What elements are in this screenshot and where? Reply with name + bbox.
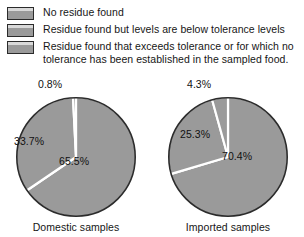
legend-item-label: No residue found — [43, 6, 124, 19]
charts-container: 0.8% 33.7% 65.5% Domestic samples 4.3% 2… — [0, 78, 304, 237]
pie-slice-label-middle: 25.3% — [180, 128, 210, 140]
legend-item-label: Residue found but levels are below toler… — [43, 23, 285, 36]
legend-item-exceeds-tolerance: Residue found that exceeds tolerance or … — [0, 40, 304, 65]
chart-domestic-samples: 0.8% 33.7% 65.5% Domestic samples — [0, 78, 152, 237]
legend-swatch-icon — [7, 24, 34, 37]
legend-swatch-icon — [7, 41, 34, 54]
pie-slice-label-major: 70.4% — [222, 150, 252, 162]
pie-slice-label-minor: 4.3% — [187, 78, 211, 90]
chart-imported-samples: 4.3% 25.3% 70.4% Imported samples — [152, 78, 304, 237]
legend-item-label: Residue found that exceeds tolerance or … — [43, 40, 294, 65]
legend-item-no-residue: No residue found — [0, 6, 304, 20]
pie-slice-label-major: 65.5% — [59, 155, 89, 167]
chart-caption: Imported samples — [152, 221, 304, 233]
legend-item-below-tolerance: Residue found but levels are below toler… — [0, 23, 304, 37]
chart-caption: Domestic samples — [0, 221, 152, 233]
legend-swatch-icon — [7, 7, 34, 20]
pie-slice-label-middle: 33.7% — [14, 135, 44, 147]
pie-slice-label-minor: 0.8% — [38, 78, 62, 90]
legend: No residue found Residue found but level… — [0, 0, 304, 68]
